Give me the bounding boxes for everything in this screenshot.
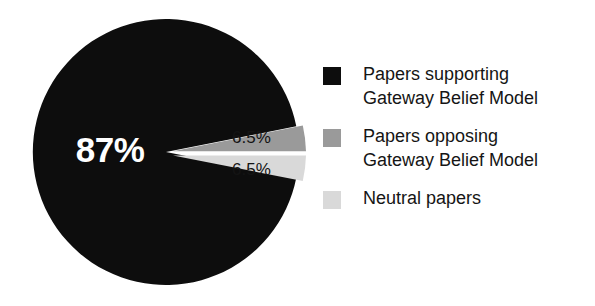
legend-label-supporting-line1: Papers supporting [363, 62, 595, 86]
pie-chart-figure: 87% 6.5% 6.5% Papers supporting Gateway … [0, 0, 595, 306]
legend-label-supporting: Papers supporting Gateway Belief Model [363, 62, 595, 110]
pie-chart-plot-area: 87% 6.5% 6.5% [0, 0, 310, 306]
legend-item-opposing[interactable]: Papers opposing Gateway Belief Model [320, 124, 595, 172]
legend-swatch-opposing-icon [323, 129, 341, 147]
legend-swatch-supporting-icon [323, 67, 341, 85]
legend-label-opposing-line1: Papers opposing [363, 124, 595, 148]
pie-slice-supporting[interactable] [33, 19, 296, 285]
legend-label-neutral-line1: Neutral papers [363, 186, 595, 210]
legend-label-neutral: Neutral papers [363, 186, 595, 210]
legend-label-opposing-line2: Gateway Belief Model [363, 148, 595, 172]
chart-legend: Papers supporting Gateway Belief Model P… [320, 62, 595, 224]
legend-label-opposing: Papers opposing Gateway Belief Model [363, 124, 595, 172]
legend-item-supporting[interactable]: Papers supporting Gateway Belief Model [320, 62, 595, 110]
legend-item-neutral[interactable]: Neutral papers [320, 186, 595, 210]
legend-label-supporting-line2: Gateway Belief Model [363, 86, 595, 110]
pie-chart-svg [0, 0, 310, 306]
legend-swatch-neutral-icon [323, 191, 341, 209]
